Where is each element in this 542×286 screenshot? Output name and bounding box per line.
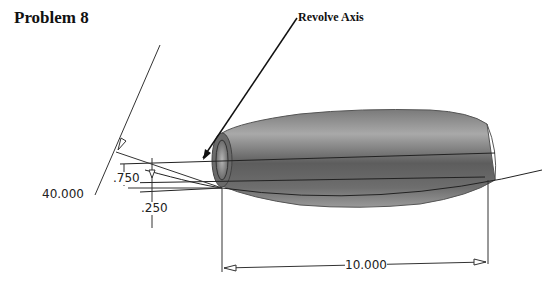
- revolve-sketch-drawing: [0, 0, 542, 286]
- offset-dimensions: [124, 158, 222, 228]
- revolved-body: [212, 110, 496, 208]
- length-dimension-value: 10.000: [345, 259, 387, 272]
- outer-offset-value: .750: [113, 172, 140, 185]
- angle-dimension-value: 40.000: [42, 188, 84, 201]
- inner-offset-value: .250: [141, 202, 168, 215]
